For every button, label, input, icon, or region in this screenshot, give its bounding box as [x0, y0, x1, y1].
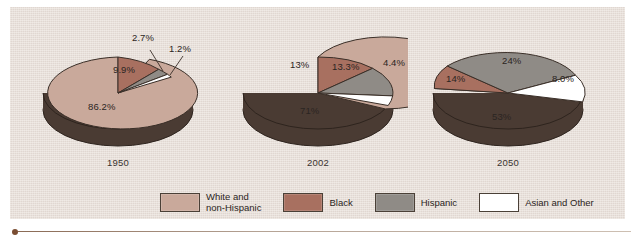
legend-swatch-white-non-hispanic [160, 193, 200, 212]
slice-label-white-non-hispanic-1950: 86.2% [88, 101, 115, 112]
callout-label-asian-other-1950: 1.2% [169, 43, 191, 54]
legend-label-line1: Black [329, 197, 352, 208]
slice-label-black-2050: 14% [446, 73, 465, 84]
legend-swatch-asian-other [479, 193, 519, 212]
legend-item-white-non-hispanic: White and non-Hispanic [160, 191, 261, 213]
callout-label-asian-other-2002: 4.4% [383, 57, 405, 68]
legend-item-black: Black [283, 193, 352, 212]
year-label-2002: 2002 [228, 157, 408, 168]
slice-label-asian-other-2050: 8.0% [552, 73, 574, 84]
legend-item-hispanic: Hispanic [375, 193, 457, 212]
pie-2002-graphic [228, 35, 408, 155]
pie-2050-graphic [418, 35, 598, 155]
rule-dot-icon [12, 229, 18, 235]
chart-legend: White and non-Hispanic Black Hispanic As… [160, 191, 616, 213]
slice-label-hispanic-2002: 13.3% [332, 61, 359, 72]
legend-label-hispanic: Hispanic [421, 197, 457, 208]
slice-label-black-1950: 9.9% [113, 64, 135, 75]
decorative-rule [12, 230, 631, 233]
legend-label-white-non-hispanic: White and non-Hispanic [206, 191, 261, 213]
year-label-2050: 2050 [418, 157, 598, 168]
chart-panel: 86.2% 9.9% 2.7% 1.2% 1950 71% 13% [10, 7, 625, 219]
legend-label-line1: Hispanic [421, 197, 457, 208]
legend-label-line1: Asian and Other [525, 197, 594, 208]
legend-swatch-hispanic [375, 193, 415, 212]
slice-label-white-non-hispanic-2002: 71% [300, 105, 319, 116]
pie-chart-2002: 71% 13% 13.3% 4.4% 2002 [228, 35, 408, 175]
legend-label-asian-other: Asian and Other [525, 197, 594, 208]
legend-item-asian-other: Asian and Other [479, 193, 594, 212]
year-label-1950: 1950 [28, 157, 208, 168]
legend-label-black: Black [329, 197, 352, 208]
legend-label-line2: non-Hispanic [206, 202, 261, 213]
pie-chart-2050: 53% 14% 24% 8.0% 2050 [418, 35, 598, 175]
slice-label-black-2002: 13% [290, 59, 309, 70]
legend-label-line1: White and [206, 191, 261, 202]
pie-chart-1950: 86.2% 9.9% 2.7% 1.2% 1950 [28, 35, 208, 175]
rule-line [18, 231, 631, 232]
callout-label-hispanic-1950: 2.7% [132, 32, 154, 43]
slice-label-hispanic-2050: 24% [502, 55, 521, 66]
slice-label-white-non-hispanic-2050: 53% [492, 111, 511, 122]
legend-swatch-black [283, 193, 323, 212]
